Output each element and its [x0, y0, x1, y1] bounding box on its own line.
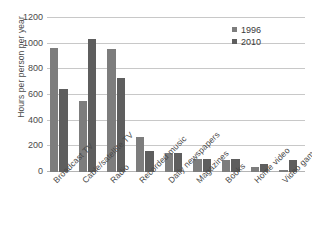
legend-swatch-icon-1996 [232, 27, 237, 32]
bar-1996 [136, 137, 145, 172]
bar-group [279, 18, 297, 172]
y-tick-label-400: 400 [28, 115, 43, 125]
y-tick-label-0: 0 [38, 166, 43, 176]
y-tick-label-200: 200 [28, 140, 43, 150]
x-axis-tick [61, 172, 62, 175]
y-tick-label-600: 600 [28, 89, 43, 99]
x-axis-tick [176, 172, 177, 175]
legend-label-2010: 2010 [241, 37, 261, 47]
x-axis-tick [291, 172, 292, 175]
bar-group [50, 18, 68, 172]
bar-chart: Hours per person per year 02004006008001… [0, 0, 312, 252]
bar-1996 [193, 159, 202, 172]
bar-2010 [231, 159, 240, 172]
x-axis-tick [262, 172, 263, 175]
bar-2010 [260, 164, 269, 172]
bar-2010 [59, 89, 68, 172]
bar-2010 [88, 39, 97, 172]
bar-group [107, 18, 125, 172]
bar-1996 [50, 48, 59, 172]
bar-group [193, 18, 211, 172]
bar-1996 [107, 49, 116, 172]
legend-item-2010: 2010 [232, 36, 261, 47]
legend-swatch-icon-2010 [232, 39, 237, 44]
chart-legend: 1996 2010 [232, 24, 261, 48]
bar-2010 [289, 160, 298, 172]
bar-1996 [251, 167, 260, 172]
y-tick-label-1200: 1200 [23, 12, 43, 22]
legend-label-1996: 1996 [241, 25, 261, 35]
bar-1996 [222, 160, 231, 172]
y-tick-label-800: 800 [28, 63, 43, 73]
bar-1996 [165, 153, 174, 172]
bar-1996 [79, 101, 88, 172]
bar-2010 [145, 151, 154, 172]
bars-layer [47, 18, 305, 172]
x-axis-tick [147, 172, 148, 175]
x-axis-tick [233, 172, 234, 175]
bar-1996 [279, 170, 288, 172]
plot-area: 020040060080010001200 [47, 18, 305, 172]
bar-2010 [203, 159, 212, 172]
bar-group [165, 18, 183, 172]
y-tick-label-1000: 1000 [23, 38, 43, 48]
legend-item-1996: 1996 [232, 24, 261, 35]
x-axis-tick [90, 172, 91, 175]
bar-2010 [174, 153, 183, 172]
bar-group [79, 18, 97, 172]
x-axis-tick [205, 172, 206, 175]
bar-group [136, 18, 154, 172]
bar-2010 [117, 78, 126, 172]
x-axis-tick [119, 172, 120, 175]
